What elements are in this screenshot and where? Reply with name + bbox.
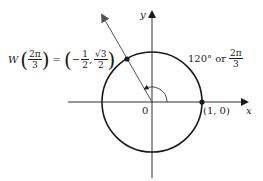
angle-radians: 2π 3 <box>229 48 243 69</box>
origin-label: 0 <box>142 106 148 116</box>
angle-label: 120° or 2π 3 <box>188 48 243 69</box>
point-1-0 <box>199 99 204 104</box>
x-axis-label: x <box>246 106 252 116</box>
unit-circle-diagram <box>0 0 263 181</box>
point-W <box>124 56 129 61</box>
angle-degrees: 120° or <box>188 54 226 64</box>
point-1-0-label: (1, 0) <box>203 106 230 116</box>
point-W-label: W ( 2π 3 ) = ( − 1 2 , √3 2 ) <box>8 49 115 70</box>
y-axis-label: y <box>140 10 146 20</box>
